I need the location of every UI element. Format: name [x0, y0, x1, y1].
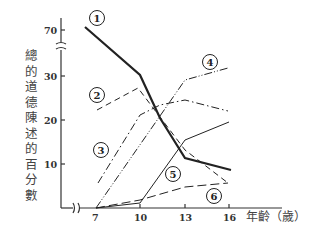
marker-2: 2: [90, 88, 105, 103]
y-tick-10: 10: [44, 159, 58, 170]
series-4-line: [96, 68, 228, 208]
x-tick-10: 10: [134, 212, 148, 223]
marker-5: 5: [166, 167, 181, 182]
x-tick-16: 16: [223, 212, 237, 223]
y-tick-labels: 70 30 20 10: [44, 25, 58, 170]
svg-text:6: 6: [211, 191, 218, 202]
marker-3: 3: [94, 143, 109, 158]
x-tick-13: 13: [179, 212, 192, 223]
y-axis: [56, 18, 66, 208]
y-tick-20: 20: [44, 115, 58, 126]
marker-1: 1: [90, 11, 105, 26]
y-tick-30: 30: [44, 71, 58, 82]
svg-text:4: 4: [207, 57, 214, 68]
svg-text:1: 1: [94, 13, 101, 24]
series-2-line: [97, 88, 228, 183]
x-tick-labels: 7 10 13 16: [92, 212, 237, 223]
line-chart: 70 30 20 10 7 10 13 16 年齡（歲） 1: [0, 0, 321, 239]
marker-4: 4: [203, 55, 218, 70]
svg-text:2: 2: [94, 90, 101, 101]
y-tick-70: 70: [44, 25, 58, 36]
x-axis-label: 年齡（歲）: [246, 210, 306, 224]
svg-text:5: 5: [170, 169, 177, 180]
svg-text:3: 3: [98, 145, 105, 156]
x-tick-7: 7: [92, 212, 99, 223]
marker-6: 6: [207, 189, 222, 204]
